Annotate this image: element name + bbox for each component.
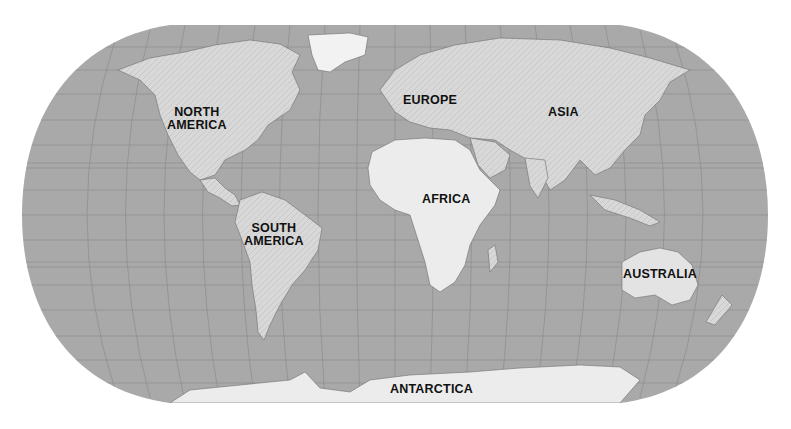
- label-africa: AFRICA: [422, 193, 470, 206]
- label-asia: ASIA: [548, 106, 579, 119]
- label-north-america: NORTH AMERICA: [167, 106, 227, 132]
- label-south-america: SOUTH AMERICA: [244, 222, 304, 248]
- label-australia: AUSTRALIA: [623, 268, 697, 281]
- label-europe: EUROPE: [403, 94, 457, 107]
- world-map: [0, 0, 791, 429]
- label-antarctica: ANTARCTICA: [390, 383, 473, 396]
